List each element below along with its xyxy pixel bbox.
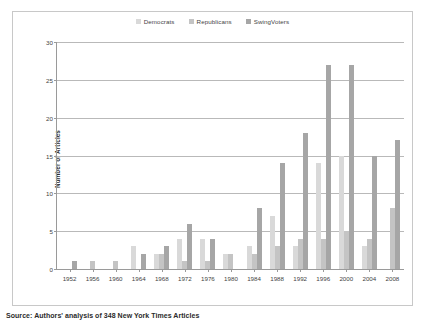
x-tick-mark-2008 <box>392 269 393 272</box>
x-tick-mark-1972 <box>185 269 186 272</box>
y-tick-mark-10 <box>54 193 57 194</box>
legend-swatch-swingvoters <box>246 19 251 24</box>
bar-group-1976: 1976 <box>196 42 219 269</box>
bar-group-1960: 1960 <box>104 42 127 269</box>
y-tick-mark-25 <box>54 80 57 81</box>
bar-swingvoters-1972 <box>187 224 192 269</box>
bar-swingvoters-1976 <box>210 239 215 269</box>
x-tick-mark-1992 <box>300 269 301 272</box>
y-tick-mark-20 <box>54 118 57 119</box>
x-tick-label-1964: 1964 <box>132 275 146 282</box>
bar-swingvoters-2008 <box>395 140 400 269</box>
x-tick-label-1996: 1996 <box>316 275 330 282</box>
legend-entry-democrats: Democrats <box>136 18 175 25</box>
x-tick-mark-1964 <box>139 269 140 272</box>
y-tick-label-10: 10 <box>46 190 53 197</box>
bar-swingvoters-2004 <box>372 156 377 270</box>
plot-area: 051015202530 195219561960196419681972197… <box>56 42 404 270</box>
x-tick-mark-1956 <box>93 269 94 272</box>
bar-group-1992: 1992 <box>289 42 312 269</box>
bar-group-1956: 1956 <box>81 42 104 269</box>
x-tick-label-2008: 2008 <box>386 275 400 282</box>
bar-swingvoters-1964 <box>141 254 146 269</box>
x-tick-label-1988: 1988 <box>270 275 284 282</box>
x-tick-label-1972: 1972 <box>178 275 192 282</box>
x-tick-mark-1980 <box>231 269 232 272</box>
legend-label-democrats: Democrats <box>144 18 175 25</box>
x-tick-mark-1968 <box>162 269 163 272</box>
x-tick-label-1952: 1952 <box>63 275 77 282</box>
y-tick-mark-30 <box>54 42 57 43</box>
x-tick-mark-2004 <box>369 269 370 272</box>
bar-swingvoters-1988 <box>280 163 285 269</box>
y-tick-label-5: 5 <box>50 228 53 235</box>
bar-republicans-1960 <box>113 261 118 269</box>
bar-group-1984: 1984 <box>243 42 266 269</box>
y-tick-label-0: 0 <box>50 266 53 273</box>
y-tick-label-30: 30 <box>46 39 53 46</box>
legend-label-swingvoters: SwingVoters <box>254 18 290 25</box>
bar-group-1968: 1968 <box>150 42 173 269</box>
bar-republicans-1956 <box>90 261 95 269</box>
y-tick-mark-15 <box>54 156 57 157</box>
bar-swingvoters-1952 <box>72 261 77 269</box>
bar-group-2000: 2000 <box>335 42 358 269</box>
y-tick-label-15: 15 <box>46 152 53 159</box>
bar-democrats-1964 <box>131 246 136 269</box>
bar-group-2004: 2004 <box>358 42 381 269</box>
chart-legend: DemocratsRepublicansSwingVoters <box>13 18 412 25</box>
x-tick-mark-1988 <box>277 269 278 272</box>
chart-frame: DemocratsRepublicansSwingVoters Number o… <box>12 11 413 306</box>
y-tick-label-25: 25 <box>46 76 53 83</box>
bar-group-2008: 2008 <box>381 42 404 269</box>
bar-group-1952: 1952 <box>58 42 81 269</box>
legend-entry-republicans: Republicans <box>189 18 232 25</box>
legend-entry-swingvoters: SwingVoters <box>246 18 290 25</box>
x-tick-label-1976: 1976 <box>201 275 215 282</box>
bar-group-1972: 1972 <box>173 42 196 269</box>
y-tick-label-20: 20 <box>46 114 53 121</box>
x-tick-label-1992: 1992 <box>293 275 307 282</box>
x-tick-label-1968: 1968 <box>155 275 169 282</box>
x-tick-label-1980: 1980 <box>224 275 238 282</box>
bar-swingvoters-2000 <box>349 65 354 269</box>
legend-label-republicans: Republicans <box>197 18 232 25</box>
bars-layer: 1952195619601964196819721976198019841988… <box>58 42 404 269</box>
bar-group-1964: 1964 <box>127 42 150 269</box>
x-tick-mark-1952 <box>70 269 71 272</box>
y-tick-mark-0 <box>54 269 57 270</box>
y-tick-mark-5 <box>54 231 57 232</box>
bar-group-1980: 1980 <box>219 42 242 269</box>
bar-swingvoters-1996 <box>326 65 331 269</box>
legend-swatch-republicans <box>189 19 194 24</box>
source-note: Source: Authors' analysis of 348 New Yor… <box>6 312 199 319</box>
chart-figure: DemocratsRepublicansSwingVoters Number o… <box>0 0 425 334</box>
bar-republicans-1980 <box>228 254 233 269</box>
x-tick-label-2000: 2000 <box>339 275 353 282</box>
x-tick-label-1956: 1956 <box>86 275 100 282</box>
x-tick-mark-1996 <box>323 269 324 272</box>
x-tick-mark-1976 <box>208 269 209 272</box>
bar-swingvoters-1968 <box>164 246 169 269</box>
bar-group-1988: 1988 <box>266 42 289 269</box>
bar-swingvoters-1984 <box>257 208 262 269</box>
x-tick-mark-1984 <box>254 269 255 272</box>
x-tick-label-2004: 2004 <box>362 275 376 282</box>
x-tick-label-1960: 1960 <box>109 275 123 282</box>
x-tick-label-1984: 1984 <box>247 275 261 282</box>
bar-swingvoters-1992 <box>303 133 308 269</box>
bar-group-1996: 1996 <box>312 42 335 269</box>
x-tick-mark-1960 <box>116 269 117 272</box>
legend-swatch-democrats <box>136 19 141 24</box>
x-tick-mark-2000 <box>346 269 347 272</box>
